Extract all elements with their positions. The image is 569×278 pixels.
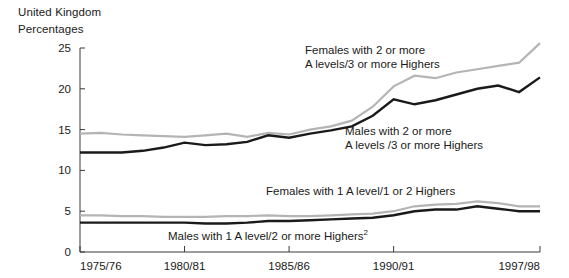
annotation-males-two-or-more: Males with 2 or more A levels /3 or more…: [345, 125, 483, 152]
series-line: [80, 201, 540, 217]
annotation-females-two-or-more: Females with 2 or more A levels/3 or mor…: [305, 44, 440, 71]
x-axis-ticks: 1975/761980/811985/861990/911997/98: [80, 246, 540, 272]
annotation-footnote-marker: 2: [364, 228, 368, 237]
annotation-line-1: Males with 2 or more: [345, 125, 483, 139]
x-tick-label: 1990/91: [373, 260, 415, 272]
chart-page: United Kingdom Percentages 0510152025197…: [0, 0, 569, 278]
y-tick-label: 20: [58, 83, 71, 95]
y-tick-label: 10: [58, 164, 71, 176]
annotation-line-1: Males with 1 A level/2 or more Highers: [168, 230, 364, 242]
y-tick-label: 25: [58, 42, 71, 54]
annotation-line-2: A levels/3 or more Highers: [305, 58, 440, 72]
annotation-line-1: Females with 1 A level/1 or 2 Highers: [266, 185, 455, 199]
x-tick-label: 1980/81: [164, 260, 206, 272]
x-tick-label: 1975/76: [80, 260, 122, 272]
y-tick-label: 15: [58, 124, 71, 136]
x-tick-label: 1985/86: [268, 260, 310, 272]
annotation-line-1: Females with 2 or more: [305, 44, 440, 58]
annotation-males-one-a-level: Males with 1 A level/2 or more Highers2: [168, 230, 368, 244]
annotation-line-2: A levels /3 or more Highers: [345, 139, 483, 153]
y-tick-label: 5: [65, 205, 71, 217]
x-tick-label: 1997/98: [498, 260, 540, 272]
annotation-females-one-a-level: Females with 1 A level/1 or 2 Highers: [266, 185, 455, 199]
y-axis-ticks: 0510152025: [58, 42, 85, 258]
series-line: [80, 206, 540, 223]
y-tick-label: 0: [65, 246, 71, 258]
